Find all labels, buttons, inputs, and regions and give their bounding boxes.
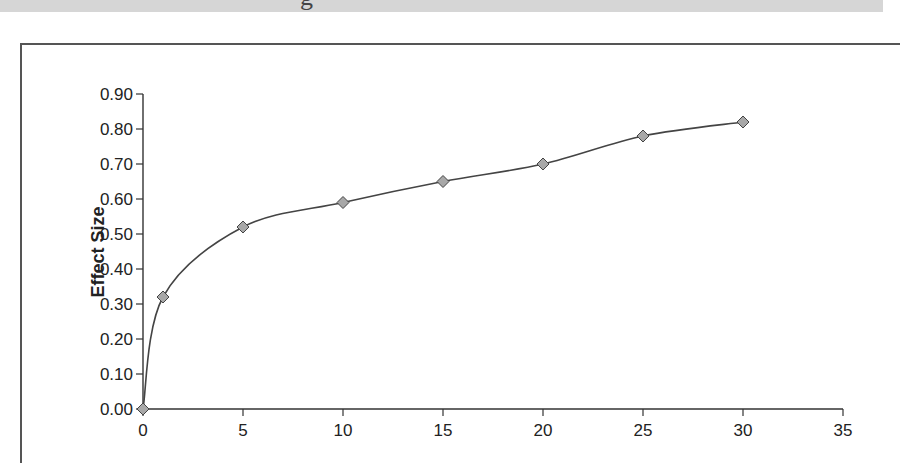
diamond-marker-icon	[437, 176, 449, 188]
y-tick-label: 0.90	[100, 85, 133, 104]
x-tick-label: 30	[734, 421, 753, 440]
diamond-marker-icon	[737, 116, 749, 128]
y-tick-label: 0.70	[100, 155, 133, 174]
x-tick-label: 15	[434, 421, 453, 440]
y-tick-label: 0.60	[100, 190, 133, 209]
x-tick-label: 20	[534, 421, 553, 440]
diamond-marker-icon	[137, 403, 149, 415]
x-tick-label: 5	[238, 421, 247, 440]
y-axis-title: Effect Size	[88, 206, 108, 297]
series-markers	[137, 116, 749, 415]
diamond-marker-icon	[537, 158, 549, 170]
y-tick-label: 0.00	[100, 400, 133, 419]
diamond-marker-icon	[337, 197, 349, 209]
diamond-marker-icon	[157, 291, 169, 303]
diamond-marker-icon	[637, 130, 649, 142]
x-axis: 05101520253035	[138, 409, 852, 440]
x-tick-label: 25	[634, 421, 653, 440]
y-tick-label: 0.20	[100, 330, 133, 349]
series-line	[143, 122, 743, 409]
x-tick-label: 0	[138, 421, 147, 440]
diamond-marker-icon	[237, 221, 249, 233]
x-tick-label: 35	[834, 421, 853, 440]
x-tick-label: 10	[334, 421, 353, 440]
y-tick-label: 0.80	[100, 120, 133, 139]
y-tick-label: 0.10	[100, 365, 133, 384]
